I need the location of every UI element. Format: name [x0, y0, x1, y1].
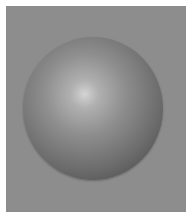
shaded-sphere — [23, 37, 163, 180]
